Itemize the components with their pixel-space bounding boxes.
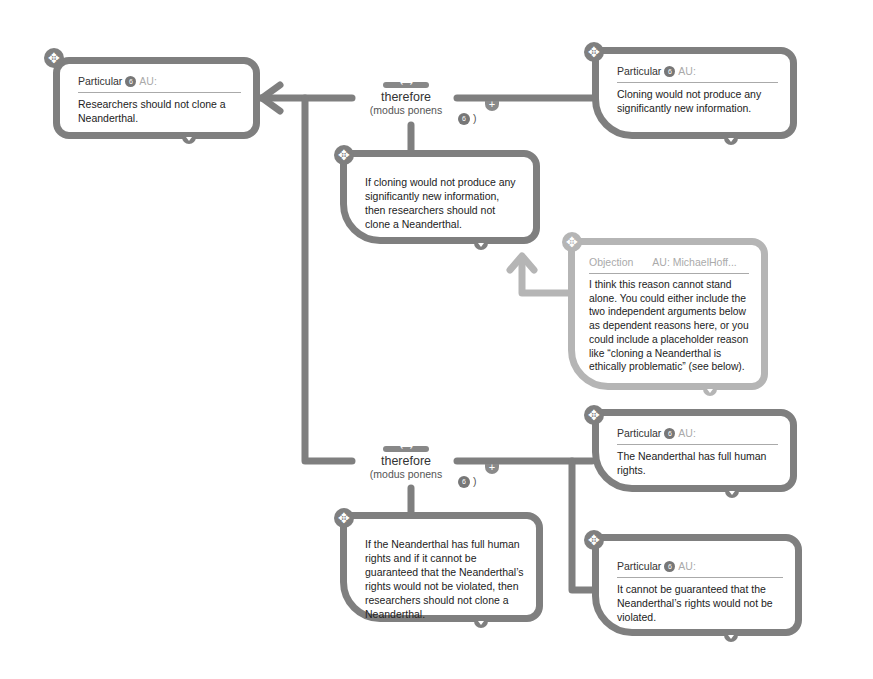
premise-box-1[interactable]: Particular 6 AU: Cloning would not produ…	[592, 47, 797, 139]
author-label: AU:	[678, 64, 696, 78]
premise-box-2a[interactable]: Particular 6 AU: The Neanderthal has ful…	[592, 409, 797, 492]
conditional-text[interactable]: If the Neanderthal has full human rights…	[365, 537, 524, 621]
scheme-close-paren: )	[473, 112, 477, 124]
objection-type: Objection	[589, 255, 633, 269]
add-premise-icon[interactable]	[485, 464, 499, 474]
move-handle-icon[interactable]	[334, 508, 354, 528]
move-handle-icon[interactable]	[562, 232, 582, 252]
info-badge-icon[interactable]: 6	[664, 428, 675, 439]
claim-type: Particular	[617, 64, 661, 78]
claim-header: Particular 6 AU:	[78, 74, 241, 93]
info-badge-icon[interactable]: 6	[458, 113, 470, 125]
inference-node-1[interactable]: therefore (modus ponens	[356, 82, 456, 116]
info-badge-icon[interactable]: 6	[458, 476, 470, 488]
inference-scheme: (modus ponens	[356, 104, 456, 116]
add-premise-icon[interactable]	[485, 101, 499, 111]
inference-label: therefore	[356, 90, 456, 104]
inference-scheme: (modus ponens	[356, 468, 456, 480]
move-handle-icon[interactable]	[584, 42, 604, 62]
scheme-close-paren: )	[473, 475, 477, 487]
objection-box[interactable]: Objection AU: MichaelHoff... I think thi…	[568, 238, 768, 390]
resize-handle-icon[interactable]	[383, 446, 429, 452]
claim-header: Particular 6 AU:	[617, 559, 783, 578]
move-handle-icon[interactable]	[44, 48, 64, 68]
claim-text[interactable]: Cloning would not produce any significan…	[617, 87, 778, 115]
conditional-box-2[interactable]: If the Neanderthal has full human rights…	[340, 512, 543, 622]
conditional-text[interactable]: If cloning would not produce any signifi…	[365, 175, 521, 231]
claim-type: Particular	[617, 559, 661, 573]
claim-text[interactable]: The Neanderthal has full human rights.	[617, 449, 778, 477]
author-label: AU: MichaelHoff...	[652, 255, 736, 269]
info-badge-icon[interactable]: 6	[125, 76, 136, 87]
resize-handle-icon[interactable]	[383, 82, 429, 88]
conditional-box-1[interactable]: If cloning would not produce any signifi…	[340, 150, 540, 244]
inference-label: therefore	[356, 454, 456, 468]
move-handle-icon[interactable]	[584, 530, 604, 550]
claim-text[interactable]: It cannot be guaranteed that the Neander…	[617, 582, 783, 624]
move-handle-icon[interactable]	[584, 405, 604, 425]
author-label: AU:	[678, 426, 696, 440]
claim-header: Particular 6 AU:	[617, 426, 778, 445]
move-handle-icon[interactable]	[334, 145, 354, 165]
premise-box-2b[interactable]: Particular 6 AU: It cannot be guaranteed…	[592, 534, 802, 636]
author-label: AU:	[678, 559, 696, 573]
claim-text[interactable]: Researchers should not clone a Neanderth…	[78, 97, 241, 125]
inference-node-2[interactable]: therefore (modus ponens	[356, 446, 456, 480]
objection-header: Objection AU: MichaelHoff...	[589, 255, 749, 274]
objection-text[interactable]: I think this reason cannot stand alone. …	[589, 278, 749, 374]
author-label: AU:	[139, 74, 157, 88]
info-badge-icon[interactable]: 6	[664, 66, 675, 77]
claim-type: Particular	[78, 74, 122, 88]
claim-type: Particular	[617, 426, 661, 440]
info-badge-icon[interactable]: 6	[664, 561, 675, 572]
claim-header: Particular 6 AU:	[617, 64, 778, 83]
conclusion-box[interactable]: Particular 6 AU: Researchers should not …	[53, 57, 260, 139]
